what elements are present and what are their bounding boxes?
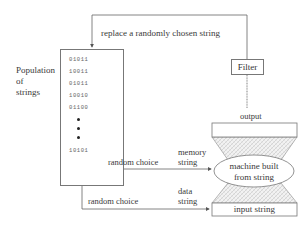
population-string-last: 10101 xyxy=(69,147,89,154)
population-label-line: of xyxy=(16,76,55,87)
output-label: output xyxy=(240,111,262,121)
output-box xyxy=(212,123,297,137)
feedback-label: replace a randomly chosen string xyxy=(101,28,220,38)
memory-string-label-line: string xyxy=(178,157,206,167)
population-label-line: Population xyxy=(16,65,55,76)
machine-label: machine built from string xyxy=(222,161,286,183)
data-string-label-line: data xyxy=(178,186,197,196)
ellipsis-dot-icon xyxy=(77,136,80,139)
memory-string-label-line: memory xyxy=(178,147,206,157)
machine-label-line: machine built xyxy=(222,161,286,172)
data-random-choice-label: random choice xyxy=(88,196,138,206)
population-string: 10011 xyxy=(69,68,89,75)
memory-random-choice-label: random choice xyxy=(108,157,158,167)
population-string: 01100 xyxy=(69,104,89,111)
data-string-label-line: string xyxy=(178,196,197,206)
input-string-label: input string xyxy=(212,204,297,214)
machine-label-line: from string xyxy=(222,172,286,183)
population-string: 10010 xyxy=(69,92,89,99)
ellipsis-dot-icon xyxy=(77,118,80,121)
population-string: 01011 xyxy=(69,80,89,87)
population-string: 01011 xyxy=(69,56,89,63)
memory-string-label: memory string xyxy=(178,147,206,167)
ellipsis-dot-icon xyxy=(77,127,80,130)
filter-box: Filter xyxy=(231,59,264,75)
population-label-line: strings xyxy=(16,87,55,98)
population-label: Population of strings xyxy=(16,65,55,98)
data-string-label: data string xyxy=(178,186,197,206)
